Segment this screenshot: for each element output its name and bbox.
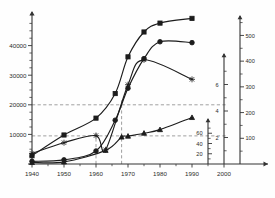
series-star-declining-marker-1960 bbox=[93, 133, 99, 139]
series-star-declining-marker-1970 bbox=[125, 82, 131, 88]
chart-figure: 1940195019601970198019902000100002000030… bbox=[0, 0, 275, 198]
left-tick-label-20000: 20000 bbox=[9, 101, 27, 108]
left-tick-label-40000: 40000 bbox=[9, 42, 27, 49]
series-triangle-lower-marker-1990 bbox=[190, 115, 195, 120]
right-axis-inner-arrow bbox=[206, 118, 211, 122]
x-tick-label-1980: 1980 bbox=[153, 170, 167, 177]
series-star-declining-marker-1940 bbox=[29, 150, 35, 156]
right-axis-middle-label-4: 4 bbox=[215, 108, 218, 114]
x-tick-label-1990: 1990 bbox=[185, 170, 199, 177]
series-square-upper-marker-1950 bbox=[62, 133, 66, 137]
x-tick-label-1970: 1970 bbox=[121, 170, 135, 177]
series-square-upper-marker-1966 bbox=[113, 91, 117, 95]
series-square-upper-marker-1980 bbox=[158, 21, 162, 25]
x-tick-label-1950: 1950 bbox=[57, 170, 71, 177]
series-circle-middle-path bbox=[32, 41, 192, 162]
right-axis-outer-label-300: 300 bbox=[246, 84, 255, 90]
x-tick-label-1960: 1960 bbox=[89, 170, 103, 177]
right-axis-inner-label-40: 40 bbox=[196, 141, 202, 147]
right-axis-outer-label-400: 400 bbox=[246, 58, 255, 64]
series-square-upper-marker-1975 bbox=[142, 30, 146, 34]
series-square-upper-marker-1990 bbox=[190, 16, 194, 20]
right-axis-middle-label-6: 6 bbox=[215, 82, 218, 88]
left-tick-label-10000: 10000 bbox=[9, 131, 27, 138]
right-axis-outer-label-200: 200 bbox=[246, 110, 255, 116]
series-square-upper-marker-1960 bbox=[94, 116, 98, 120]
x-tick-label-1940: 1940 bbox=[25, 170, 39, 177]
series-circle-middle-marker-1960 bbox=[94, 149, 99, 154]
left-tick-label-30000: 30000 bbox=[9, 72, 27, 79]
series-star-declining-marker-1950 bbox=[61, 140, 67, 146]
right-axis-outer-label-100: 100 bbox=[246, 135, 255, 141]
chart-canvas: 1940195019601970198019902000100002000030… bbox=[0, 0, 275, 198]
series-square-upper-marker-1970 bbox=[126, 55, 130, 59]
right-axis-inner-label-20: 20 bbox=[196, 151, 202, 157]
right-axis-outer-arrow bbox=[238, 15, 243, 19]
right-axis-middle-label-2: 2 bbox=[215, 135, 218, 141]
right-axis-inner-label-60: 60 bbox=[196, 130, 202, 136]
right-axis-middle-arrow bbox=[222, 53, 227, 57]
series-star-declining-marker-1990 bbox=[189, 76, 195, 82]
x-axis-arrow bbox=[264, 161, 269, 166]
series-circle-middle-marker-1990 bbox=[190, 40, 195, 45]
series-star-declining-marker-1975 bbox=[141, 57, 147, 63]
left-axis-arrow bbox=[29, 11, 34, 16]
x-tick-label-2000: 2000 bbox=[217, 170, 231, 177]
right-axis-outer-label-500: 500 bbox=[246, 33, 255, 39]
series-circle-middle-marker-1980 bbox=[158, 39, 163, 44]
